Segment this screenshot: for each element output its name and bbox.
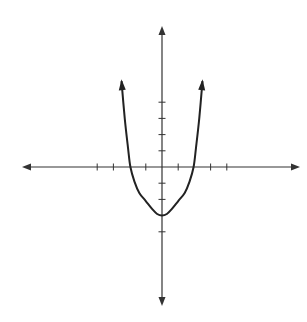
y-axis-bottom-arrow — [159, 297, 166, 306]
x-axis-left-arrow — [22, 164, 31, 171]
curve-left-arrow — [119, 79, 126, 90]
y-axis-top-arrow — [159, 26, 166, 35]
curve-right-arrow — [198, 79, 205, 90]
x-axis-right-arrow — [291, 164, 300, 171]
chart — [0, 0, 307, 322]
